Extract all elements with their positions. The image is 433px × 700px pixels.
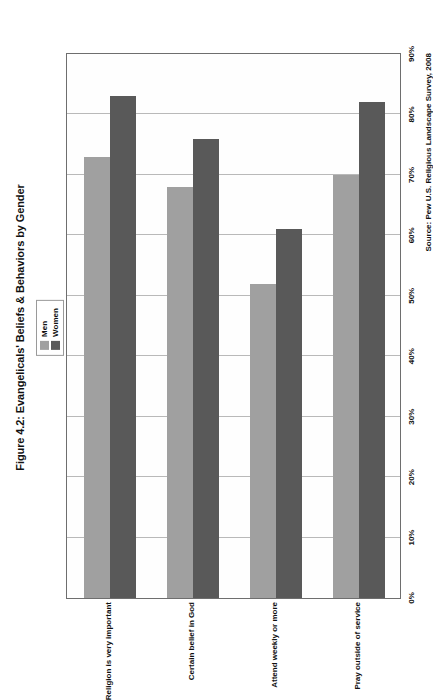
legend-label-women: Women (51, 308, 60, 337)
category-label: Pray outside of service (353, 602, 362, 690)
category-label: Attend weekly or more (270, 602, 279, 688)
plot-area: 0%10%20%30%40%50%60%70%80%90%Religion is… (66, 53, 401, 599)
page-title: Figure 4.2: Evangelicals' Beliefs & Beha… (14, 0, 26, 655)
bar-women (110, 96, 136, 598)
axis-tick-label: 70% (407, 167, 416, 183)
axis-tick-label: 80% (407, 106, 416, 122)
bar-women (276, 229, 302, 598)
category-label: Religion is very important (104, 602, 113, 700)
legend-item-women: Women (51, 308, 60, 350)
legend-label-men: Men (40, 321, 49, 337)
axis-tick-label: 20% (407, 469, 416, 485)
axis-tick-label: 50% (407, 288, 416, 304)
axis-tick-label: 30% (407, 409, 416, 425)
bar-group (67, 54, 150, 598)
bar-group (234, 54, 317, 598)
legend-item-men: Men (40, 308, 49, 350)
axis-tick-label: 10% (407, 530, 416, 546)
bar-men (167, 187, 193, 598)
axis-tick-label: 60% (407, 227, 416, 243)
legend-swatch-men (40, 341, 49, 350)
bar-men (84, 157, 110, 598)
category-label: Certain belief in God (187, 602, 196, 680)
source-note: Source: Pew U.S. Religious Landscape Sur… (424, 53, 433, 252)
bar-women (193, 139, 219, 598)
axis-tick-label: 40% (407, 348, 416, 364)
bar-group (150, 54, 233, 598)
bar-group (317, 54, 400, 598)
legend-swatch-women (51, 341, 60, 350)
bar-women (359, 102, 385, 598)
axis-tick-label: 0% (407, 592, 416, 604)
chart-legend: Men Women (36, 300, 64, 356)
bar-men (250, 284, 276, 598)
axis-tick-label: 90% (407, 46, 416, 62)
bar-men (333, 175, 359, 598)
